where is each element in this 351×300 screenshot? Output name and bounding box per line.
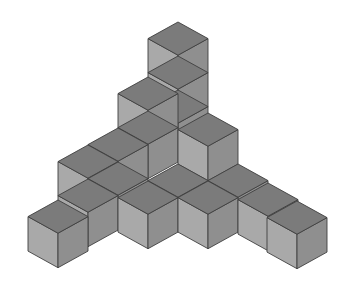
cube-figure: [0, 0, 351, 300]
